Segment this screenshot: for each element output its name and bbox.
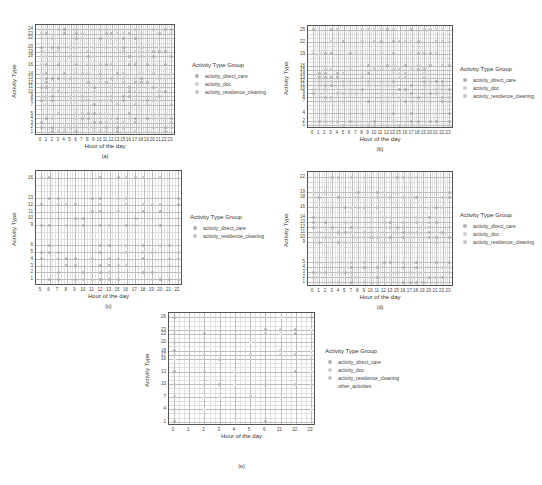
- grid-line-minor: [341, 172, 342, 285]
- grid-line-major: [332, 172, 333, 285]
- data-point: [128, 95, 131, 98]
- data-point: [170, 121, 173, 124]
- grid-line-minor: [408, 172, 409, 285]
- data-point: [336, 72, 339, 75]
- x-tick-label: 22: [162, 137, 167, 142]
- grid-line-minor: [47, 171, 48, 284]
- y-tick-label: 25: [291, 26, 305, 31]
- x-tick-label: 19: [149, 287, 154, 292]
- grid-line-minor: [61, 171, 62, 284]
- data-point: [40, 95, 43, 98]
- data-point: [203, 353, 206, 356]
- y-tick-label: 19: [19, 48, 33, 53]
- grid-line-major: [169, 397, 314, 398]
- x-tick-label: 16: [126, 137, 131, 142]
- legend-swatch-icon: [195, 74, 199, 78]
- data-point: [75, 95, 78, 98]
- data-point: [173, 383, 176, 386]
- data-point: [441, 88, 444, 91]
- data-point: [402, 176, 405, 179]
- legend-item: activity_direct_care: [192, 72, 266, 80]
- data-point: [203, 370, 206, 373]
- data-point: [423, 68, 426, 71]
- data-point: [140, 28, 143, 31]
- data-point: [404, 100, 407, 103]
- y-tick-label: 10: [291, 234, 305, 239]
- grid-line-minor: [112, 171, 113, 284]
- data-point: [99, 251, 102, 254]
- data-point: [415, 176, 418, 179]
- y-tick-label: 3: [19, 119, 33, 124]
- data-point: [422, 226, 425, 229]
- data-point: [441, 276, 444, 279]
- grid-line-minor: [98, 171, 99, 284]
- x-tick-label: 4: [233, 427, 236, 432]
- grid-line-minor: [324, 172, 325, 285]
- grid-line-minor: [356, 172, 357, 285]
- y-tick-label: 9: [19, 93, 33, 98]
- y-axis-label: Activity Type: [283, 213, 289, 247]
- y-tick-label: 4: [19, 255, 33, 260]
- data-point: [125, 264, 128, 267]
- data-point: [164, 77, 167, 80]
- data-point: [404, 112, 407, 115]
- data-point: [402, 261, 405, 264]
- data-point: [74, 217, 77, 220]
- data-point: [312, 271, 315, 274]
- data-point: [48, 197, 51, 200]
- data-point: [310, 420, 313, 423]
- data-point: [342, 72, 345, 75]
- data-point: [40, 77, 43, 80]
- x-tick-label: 11: [374, 288, 379, 293]
- y-tick-label: 4: [152, 406, 166, 411]
- y-tick-label: 6: [19, 242, 33, 247]
- data-point: [435, 236, 438, 239]
- grid-line-major: [169, 359, 314, 360]
- data-point: [370, 231, 373, 234]
- data-point: [75, 126, 78, 129]
- data-point: [99, 244, 102, 247]
- data-point: [57, 271, 60, 274]
- data-point: [105, 81, 108, 84]
- data-point: [331, 206, 334, 209]
- grid-line-minor: [169, 363, 314, 364]
- grid-line-major: [67, 171, 68, 284]
- y-tick-label: 20: [19, 44, 33, 49]
- data-point: [74, 224, 77, 227]
- data-point: [373, 40, 376, 43]
- data-point: [350, 261, 353, 264]
- data-point: [164, 90, 167, 93]
- legend-item: activity_residence_cleaning: [190, 232, 264, 240]
- data-point: [337, 271, 340, 274]
- data-point: [158, 90, 161, 93]
- data-point: [152, 117, 155, 120]
- legend-b: Activity Type Groupactivity_direct_carea…: [460, 66, 534, 100]
- x-tick-label: 11: [89, 287, 94, 292]
- data-point: [324, 88, 327, 91]
- data-point: [380, 100, 383, 103]
- data-point: [81, 95, 84, 98]
- data-point: [383, 191, 386, 194]
- grid-line-minor: [124, 171, 125, 284]
- data-point: [117, 210, 120, 213]
- grid-line-minor: [169, 376, 314, 377]
- x-tick-label: 8: [356, 288, 359, 293]
- legend-label: activity_residence_cleaning: [473, 239, 534, 245]
- data-point: [264, 383, 267, 386]
- data-point: [69, 55, 72, 58]
- y-tick-label: 14: [19, 70, 33, 75]
- grid-line-major: [58, 171, 59, 284]
- data-point: [350, 271, 353, 274]
- y-tick-label: 13: [19, 75, 33, 80]
- data-point: [370, 216, 373, 219]
- data-point: [370, 226, 373, 229]
- data-point: [336, 76, 339, 79]
- data-point: [448, 196, 451, 199]
- data-point: [392, 84, 395, 87]
- data-point: [279, 332, 282, 335]
- grid-line-major: [169, 351, 314, 352]
- data-point: [435, 206, 438, 209]
- data-point: [350, 206, 353, 209]
- data-point: [350, 221, 353, 224]
- data-point: [324, 72, 327, 75]
